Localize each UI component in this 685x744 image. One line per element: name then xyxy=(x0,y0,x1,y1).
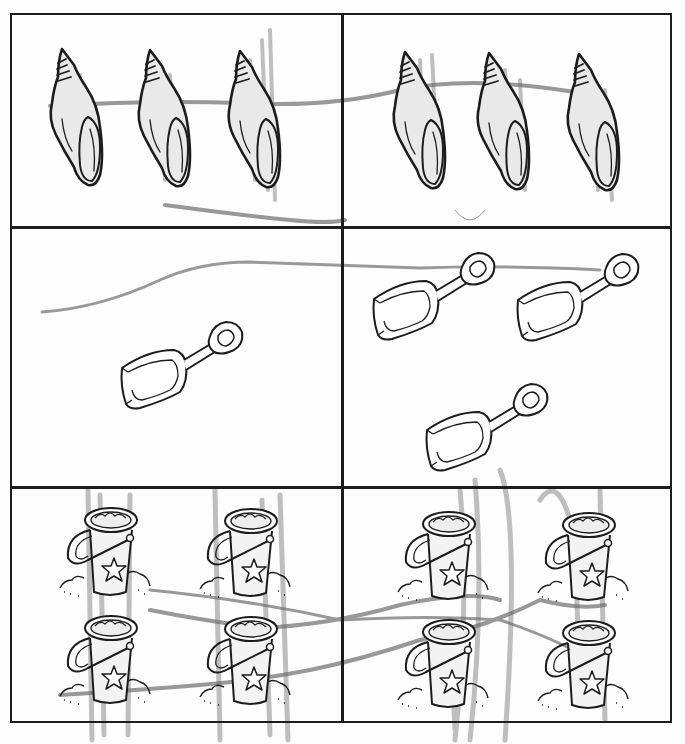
bucket-icon xyxy=(200,617,290,705)
shovel-icon xyxy=(122,322,243,409)
shovel-icon xyxy=(518,254,639,341)
cell-row2-left xyxy=(122,322,243,409)
shovel-icon xyxy=(427,384,548,471)
bucket-icon xyxy=(60,508,150,596)
worksheet-pictures xyxy=(0,0,685,744)
cell-row3-left xyxy=(60,508,290,705)
bucket-icon xyxy=(538,621,628,709)
bucket-icon xyxy=(538,513,628,601)
seashell-icon xyxy=(229,51,280,187)
shovel-icon xyxy=(374,253,495,340)
cell-row3-right xyxy=(398,512,628,709)
seashell-icon xyxy=(139,50,190,186)
seashell-icon xyxy=(568,54,619,190)
cell-row2-right xyxy=(374,253,639,471)
bucket-icon xyxy=(398,620,488,708)
cell-row1-right xyxy=(394,52,619,190)
seashell-icon xyxy=(394,52,445,188)
bucket-icon xyxy=(60,616,150,704)
cell-row1-left xyxy=(51,49,280,187)
worksheet-page: seashell shovel sand bucket xyxy=(0,0,685,744)
bucket-icon xyxy=(200,509,290,597)
seashell-icon xyxy=(478,53,529,189)
bucket-icon xyxy=(398,512,488,600)
seashell-icon xyxy=(51,49,102,185)
